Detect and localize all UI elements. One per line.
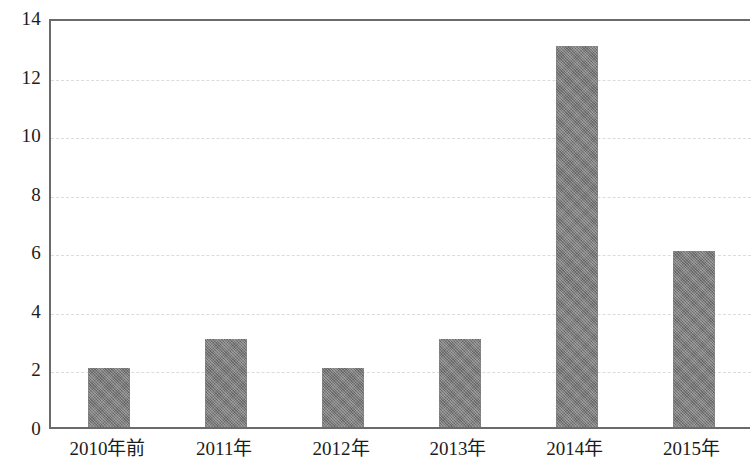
y-axis-tick-label: 14: [1, 9, 41, 28]
y-axis-tick-label: 0: [1, 419, 41, 438]
x-axis: 2010年前2011年2012年2013年2014年2015年: [49, 437, 750, 466]
x-axis-tick-label: 2012年: [313, 437, 370, 461]
y-axis-tick-label: 2: [1, 360, 41, 379]
y-axis-tick-label: 10: [1, 126, 41, 145]
bar: [88, 368, 130, 427]
x-axis-tick-label: 2013年: [429, 437, 486, 461]
y-axis-tick-label: 6: [1, 243, 41, 262]
bars: [51, 21, 750, 427]
bar: [556, 46, 598, 427]
y-axis-tick-label: 12: [1, 68, 41, 87]
plot-area: [49, 19, 750, 429]
bar: [673, 251, 715, 427]
x-axis-tick-label: 2015年: [663, 437, 720, 461]
y-axis-tick-label: 8: [1, 185, 41, 204]
bar: [322, 368, 364, 427]
x-axis-tick-label: 2014年: [546, 437, 603, 461]
bar: [205, 339, 247, 427]
x-axis-tick-label: 2011年: [196, 437, 252, 461]
y-axis-tick-label: 4: [1, 302, 41, 321]
x-axis-tick-label: 2010年前: [69, 437, 145, 461]
bar: [439, 339, 481, 427]
y-axis: 02468101214: [0, 0, 41, 466]
